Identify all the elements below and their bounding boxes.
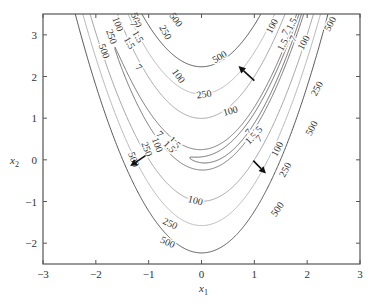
contour-label: 250 <box>196 88 212 101</box>
y-tick-label: 3 <box>32 29 38 41</box>
contour-label: 500 <box>268 200 286 219</box>
contour-line-500 <box>32 0 370 253</box>
x-tick-label: 3 <box>357 268 363 280</box>
contour-lines <box>32 0 370 253</box>
x-tick-label: −2 <box>90 268 102 280</box>
contour-chart: 50025010050071.51.5725050010050025010010… <box>0 0 376 308</box>
y-tick-label: 0 <box>32 154 38 166</box>
contour-label: 250 <box>161 215 179 231</box>
y-axis-ticks: −2−10123 <box>25 29 360 249</box>
arrow-shaft <box>244 71 255 81</box>
x-tick-label: 0 <box>199 268 205 280</box>
contour-label: 100 <box>187 193 204 208</box>
x-tick-label: −3 <box>37 268 49 280</box>
contour-line-250 <box>32 0 370 226</box>
contour-label: 100 <box>222 104 239 119</box>
contour-label: 250 <box>308 79 325 97</box>
y-tick-label: 1 <box>32 112 38 124</box>
contour-label: 500 <box>303 119 320 137</box>
contour-label: 500 <box>210 48 228 65</box>
y-axis-label: x2 <box>9 154 19 169</box>
y-tick-label: −1 <box>25 196 37 208</box>
contour-label: 500 <box>322 15 339 33</box>
x-tick-label: 1 <box>252 268 258 280</box>
x-tick-label: 2 <box>304 268 310 280</box>
contour-label: 500 <box>159 234 177 250</box>
contour-label: 500 <box>167 10 185 29</box>
contour-label: 250 <box>157 23 174 41</box>
y-tick-label: 2 <box>32 71 38 83</box>
contour-label: 100 <box>295 33 312 51</box>
y-tick-label: −2 <box>25 237 37 249</box>
x-tick-label: −1 <box>143 268 155 280</box>
contour-label: 100 <box>269 140 286 158</box>
contour-line-100 <box>32 0 370 201</box>
plot-frame <box>43 14 360 264</box>
x-axis-label: x1 <box>198 282 208 297</box>
arrow-shaft <box>253 161 261 169</box>
